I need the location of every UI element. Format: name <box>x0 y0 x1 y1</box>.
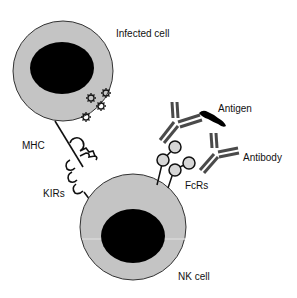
label-antibody: Antibody <box>243 153 282 163</box>
label-antigen: Antigen <box>218 104 252 114</box>
nk-cell-diagram: Infected cell MHC KIRs Antigen Antibody … <box>0 0 297 298</box>
label-infected-cell: Infected cell <box>116 29 169 39</box>
label-mhc: MHC <box>22 141 45 151</box>
mhc-molecule <box>55 121 97 167</box>
antibody-left <box>160 102 202 143</box>
label-fcrs: FcRs <box>185 181 208 191</box>
antibody-right <box>200 133 239 173</box>
nk-cell <box>80 174 186 280</box>
kir-receptor <box>66 160 90 200</box>
infected-cell <box>13 21 113 122</box>
label-nk-cell: NK cell <box>178 272 210 282</box>
label-kirs: KIRs <box>43 189 65 199</box>
